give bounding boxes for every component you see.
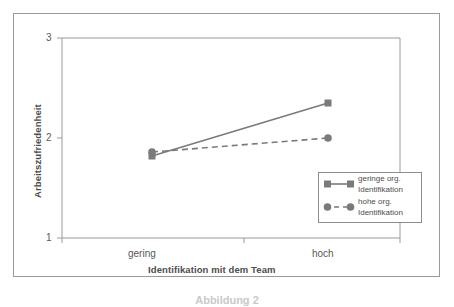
legend-label-0: geringe org. Identifikation (358, 174, 422, 195)
x-tick-label-gering: gering (128, 248, 156, 259)
series-1-line (152, 138, 328, 152)
y-axis-title-wrap: Arbeitszufriedenheit (18, 78, 34, 198)
series-0-marker-1 (325, 100, 332, 107)
legend-label-1: hohe org. Identifikation (358, 197, 422, 218)
legend-label-1-line1: hohe org. (358, 197, 422, 208)
y-axis-title: Arbeitszufriedenheit (32, 104, 43, 198)
legend-symbol-solid-square (323, 178, 355, 190)
legend-label-1-line2: Identifikation (358, 208, 422, 219)
series-0-line (152, 103, 328, 156)
figure-caption: Abbildung 2 (0, 294, 454, 307)
chart-plot-area: Arbeitszufriedenheit 3 2 1 gering hoch I… (0, 0, 454, 307)
legend-label-0-line2: Identifikation (358, 185, 422, 196)
chart-svg (0, 0, 454, 307)
x-axis-title: Identifikation mit dem Team (148, 264, 276, 275)
series-1-marker-0 (148, 148, 156, 156)
y-tick-label-2: 2 (46, 132, 52, 143)
chart-legend: geringe org. Identifikation hohe org. Id… (318, 172, 422, 223)
legend-symbol-dashed-circle (323, 201, 355, 213)
y-tick-label-1: 1 (46, 232, 52, 243)
legend-entry-hohe-org-identifikation: hohe org. Identifikation (319, 198, 423, 222)
y-tick-label-3: 3 (46, 32, 52, 43)
x-tick-label-hoch: hoch (312, 248, 334, 259)
legend-label-0-line1: geringe org. (358, 174, 422, 185)
series-1-marker-1 (324, 134, 332, 142)
legend-entry-geringe-org-identifikation: geringe org. Identifikation (319, 175, 423, 199)
